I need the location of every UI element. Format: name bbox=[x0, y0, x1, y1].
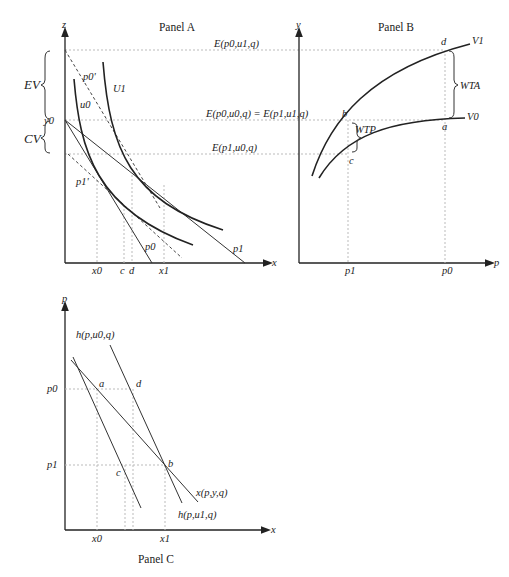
tick-d: d bbox=[129, 265, 135, 276]
panel-c-x-label: x bbox=[270, 524, 276, 535]
point-b: b bbox=[342, 108, 347, 119]
label-e-mid: E(p0,u0,q) = E(p1,u1,q) bbox=[205, 108, 309, 120]
label-wtp: WTP bbox=[355, 124, 377, 135]
marshallian-demand bbox=[71, 360, 198, 502]
tick-p0: p0 bbox=[441, 265, 453, 276]
panel-b-y-label: y bbox=[295, 19, 301, 30]
label-cv: CV bbox=[24, 131, 43, 146]
hicksian-demand-u0 bbox=[73, 357, 141, 508]
panel-c: p x h(p,u0,q) x(p,y,q) h(p,u1,q) a d b c… bbox=[46, 293, 276, 565]
label-v1: V1 bbox=[472, 35, 484, 46]
wta-brace bbox=[449, 51, 458, 118]
point-a: a bbox=[442, 121, 447, 132]
label-p1: p1 bbox=[232, 243, 244, 254]
label-e-top: E(p0,u1,q) bbox=[213, 38, 259, 50]
point-c: c bbox=[116, 467, 121, 478]
tick-x1: x1 bbox=[158, 265, 169, 276]
panel-a: Panel A z x p0' u0 U1 p1' p0 p1 y0 x0 c … bbox=[23, 19, 445, 276]
tick-p1: p1 bbox=[344, 265, 356, 276]
panel-a-title: Panel A bbox=[159, 21, 196, 33]
point-b: b bbox=[168, 458, 173, 469]
label-v0: V0 bbox=[467, 111, 479, 122]
indifference-curve-u0 bbox=[74, 79, 193, 245]
label-u1: U1 bbox=[113, 83, 126, 94]
label-h-u1: h(p,u1,q) bbox=[178, 509, 217, 521]
point-a: a bbox=[99, 378, 104, 389]
panel-b-x-label: p bbox=[493, 257, 499, 268]
label-u0: u0 bbox=[80, 99, 91, 110]
tick-x1: x1 bbox=[159, 533, 170, 544]
panel-c-y-label: p bbox=[61, 293, 67, 304]
label-p1-prime: p1' bbox=[75, 176, 90, 187]
label-ev: EV bbox=[23, 77, 42, 92]
label-x-pyq: x(p,y,q) bbox=[195, 487, 228, 499]
point-d: d bbox=[441, 36, 447, 47]
tick-x0: x0 bbox=[91, 533, 103, 544]
point-d: d bbox=[136, 378, 142, 389]
hicksian-demand-u1 bbox=[110, 345, 182, 503]
label-wta: WTA bbox=[460, 80, 481, 91]
label-h-u0: h(p,u0,q) bbox=[76, 329, 115, 341]
welfare-diagram: Panel A z x p0' u0 U1 p1' p0 p1 y0 x0 c … bbox=[0, 0, 509, 577]
tick-c: c bbox=[120, 265, 125, 276]
panel-a-y-label: z bbox=[61, 19, 66, 30]
panel-b-title: Panel B bbox=[378, 21, 414, 33]
tick-p0: p0 bbox=[46, 383, 58, 394]
panel-b: Panel B y p V1 V0 d a b c WTA WTP p1 p0 bbox=[295, 19, 499, 276]
point-c: c bbox=[349, 155, 354, 166]
ev-brace bbox=[41, 51, 50, 119]
label-p0: p0 bbox=[144, 241, 156, 252]
label-e-low: E(p1,u0,q) bbox=[211, 142, 257, 154]
label-p0-prime: p0' bbox=[82, 71, 97, 82]
panel-a-x-label: x bbox=[271, 257, 277, 268]
panel-c-title: Panel C bbox=[138, 553, 174, 565]
tick-p1: p1 bbox=[46, 459, 58, 470]
tick-x0: x0 bbox=[91, 265, 103, 276]
label-y0: y0 bbox=[43, 115, 55, 126]
